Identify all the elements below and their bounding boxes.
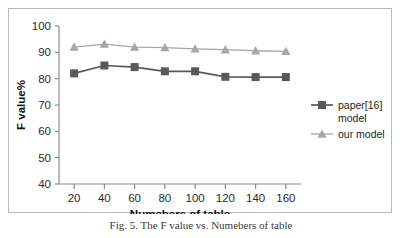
- figure-caption: Fig. 5. The F value vs. Numebers of tabl…: [0, 219, 402, 238]
- data-point-marker: [70, 69, 78, 77]
- data-point-marker: [161, 67, 169, 75]
- legend-label: paper[16]: [338, 99, 382, 111]
- data-point-marker: [252, 73, 260, 81]
- x-axis-tick-label: 100: [186, 192, 205, 204]
- legend-item[interactable]: paper[16]model: [311, 99, 382, 124]
- x-axis-tick-label: 80: [158, 192, 171, 204]
- data-point-marker: [100, 40, 109, 48]
- y-axis-tick-label: 70: [38, 99, 51, 111]
- legend-group: paper[16]modelour model: [311, 99, 385, 140]
- y-axis-title: F value%: [15, 80, 27, 130]
- data-point-marker: [318, 101, 326, 109]
- y-axis-tick-label: 90: [38, 46, 51, 58]
- x-axis-title: Numebers of table: [130, 208, 230, 214]
- data-point-marker: [282, 73, 290, 81]
- y-axis-tick-label: 50: [38, 152, 51, 164]
- figure-root: 405060708090100 20406080100120140160 pap…: [0, 0, 402, 238]
- x-axis-group: 20406080100120140160: [59, 184, 301, 204]
- chart-plot-area: 405060708090100 20406080100120140160 pap…: [9, 9, 391, 212]
- data-point-marker: [221, 73, 229, 81]
- data-point-marker: [100, 62, 108, 70]
- x-axis-tick-label: 40: [98, 192, 111, 204]
- y-axis-tick-label: 100: [32, 20, 51, 32]
- chart-series: [70, 40, 291, 55]
- legend-item[interactable]: our model: [311, 128, 385, 140]
- legend-label: model: [338, 112, 367, 124]
- y-axis-group: 405060708090100: [32, 20, 59, 190]
- chart-svg: 405060708090100 20406080100120140160 pap…: [9, 9, 393, 214]
- y-axis-tick-label: 40: [38, 178, 51, 190]
- series-group: [70, 40, 291, 82]
- x-axis-tick-label: 160: [276, 192, 295, 204]
- x-axis-tick-label: 140: [246, 192, 265, 204]
- chart-frame: 405060708090100 20406080100120140160 pap…: [8, 8, 392, 213]
- x-axis-tick-label: 60: [128, 192, 141, 204]
- y-axis-tick-label: 60: [38, 125, 51, 137]
- figure-caption-text: Fig. 5. The F value vs. Numebers of tabl…: [110, 219, 293, 231]
- chart-series: [70, 62, 290, 82]
- data-point-marker: [191, 67, 199, 75]
- legend-label: our model: [338, 128, 385, 140]
- x-axis-tick-label: 120: [216, 192, 235, 204]
- data-point-marker: [131, 63, 139, 71]
- y-axis-tick-label: 80: [38, 73, 51, 85]
- x-axis-tick-label: 20: [68, 192, 81, 204]
